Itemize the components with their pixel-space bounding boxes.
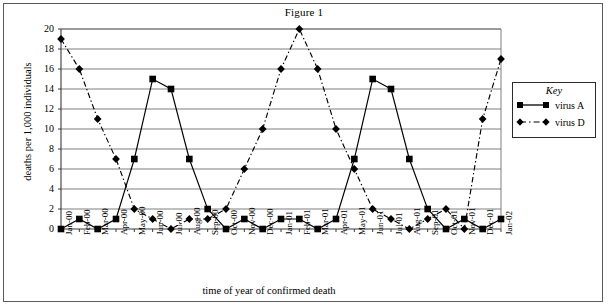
x-axis-tick-label: Jul-01 (395, 213, 404, 236)
data-point-diamond (259, 125, 267, 133)
x-axis-tick-label: Nov-00 (248, 208, 257, 236)
x-axis-tick-label: Apr-00 (120, 209, 129, 235)
x-axis-tick-label: Mar-00 (101, 208, 110, 235)
x-axis-tick-label: Nov-01 (468, 208, 477, 236)
data-point-diamond (277, 65, 285, 73)
data-point-diamond (94, 115, 102, 123)
series-line-virus-a (61, 79, 501, 229)
y-axis-tick-label: 20 (28, 24, 54, 34)
x-axis-tick-label: Aug-00 (193, 208, 202, 236)
x-axis-tick-label: Jan-00 (65, 211, 74, 235)
figure-frame: Figure 1 deaths per 1,000 individuals ti… (3, 3, 603, 302)
y-axis-tick-label: 0 (28, 224, 54, 234)
data-point-diamond (112, 155, 120, 163)
x-axis-tick-label: Jan-01 (285, 211, 294, 235)
y-axis-tick-label: 16 (28, 64, 54, 74)
x-axis-tick-label: Jan-02 (505, 211, 514, 235)
x-axis-tick-label: Sep-01 (431, 210, 440, 236)
data-point-square (168, 86, 175, 93)
x-axis-tick-label: Jul-00 (175, 213, 184, 236)
legend-sample-virus-d (516, 115, 550, 129)
data-point-square (406, 156, 413, 163)
y-axis-tick-label: 14 (28, 84, 54, 94)
y-axis-tick-label: 18 (28, 44, 54, 54)
y-axis-tick-label: 4 (28, 184, 54, 194)
legend-label-virus-a: virus A (555, 100, 584, 111)
y-axis-tick-label: 8 (28, 144, 54, 154)
data-point-square (131, 156, 138, 163)
x-axis-tick-label: Feb-00 (83, 210, 92, 236)
x-axis-tick-label: Sep-00 (211, 210, 220, 236)
x-axis-tick-label: Feb-01 (303, 210, 312, 236)
data-point-diamond (314, 65, 322, 73)
data-point-diamond (295, 25, 303, 33)
y-axis-tick-label: 12 (28, 104, 54, 114)
data-point-diamond (240, 165, 248, 173)
data-point-diamond (332, 125, 340, 133)
plot-area: deaths per 1,000 individuals time of yea… (4, 4, 604, 303)
legend-label-virus-d: virus D (555, 117, 585, 128)
legend-sample-virus-a (516, 98, 550, 112)
legend-entry-virus-d: virus D (513, 114, 595, 130)
data-point-diamond (497, 55, 505, 63)
y-axis-tick-label: 10 (28, 124, 54, 134)
data-point-diamond (479, 115, 487, 123)
x-axis-tick-label: Aug-01 (413, 208, 422, 236)
legend: Key virus A virus D (512, 82, 596, 138)
x-axis-tick-label: Jun-01 (376, 211, 385, 236)
legend-entry-virus-a: virus A (513, 97, 595, 113)
data-point-square (351, 156, 358, 163)
x-axis-tick-label: Mar-01 (321, 208, 330, 235)
legend-title: Key (513, 85, 595, 96)
data-point-square (388, 86, 395, 93)
x-axis-tick-label: Oct-01 (450, 210, 459, 235)
data-point-diamond (57, 35, 65, 43)
x-axis-tick-label: May-01 (358, 207, 367, 236)
x-axis-tick-label: Apr-01 (340, 209, 349, 235)
data-point-diamond (75, 65, 83, 73)
data-point-square (369, 76, 376, 83)
data-point-square (149, 76, 156, 83)
chart-svg (4, 4, 604, 303)
data-point-square (186, 156, 193, 163)
y-axis-tick-label: 2 (28, 204, 54, 214)
x-axis-tick-label: Jun-00 (156, 211, 165, 236)
x-axis-tick-label: Oct-00 (230, 210, 239, 235)
x-axis-tick-label: Dec-00 (266, 209, 275, 236)
y-axis-tick-label: 6 (28, 164, 54, 174)
x-axis-tick-label: May-00 (138, 207, 147, 236)
x-axis-tick-label: Dec-01 (486, 209, 495, 236)
